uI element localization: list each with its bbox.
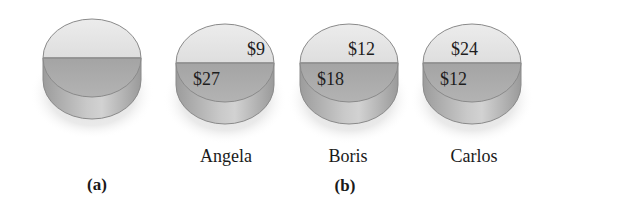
pie-angela: $9 $27 xyxy=(163,24,287,144)
boris-bottom-amount: $18 xyxy=(317,69,344,89)
panel-b-label: (b) xyxy=(335,176,356,196)
carlos-bottom-amount: $12 xyxy=(440,69,467,89)
angela-bottom-amount: $27 xyxy=(193,69,220,89)
angela-label: Angela xyxy=(200,146,252,167)
boris-label: Boris xyxy=(328,146,367,167)
boris-top-amount: $12 xyxy=(348,39,375,59)
pie-a xyxy=(30,19,154,139)
pie-boris: $12 $18 xyxy=(287,24,411,144)
angela-top-amount: $9 xyxy=(247,39,265,59)
panel-a-label: (a) xyxy=(87,175,107,195)
pie-carlos: $24 $12 xyxy=(410,24,534,144)
carlos-top-amount: $24 xyxy=(451,39,478,59)
figure: $9 $27 $12 $18 $24 $12 Angela Boris Carl… xyxy=(0,0,620,205)
carlos-label: Carlos xyxy=(451,146,498,167)
